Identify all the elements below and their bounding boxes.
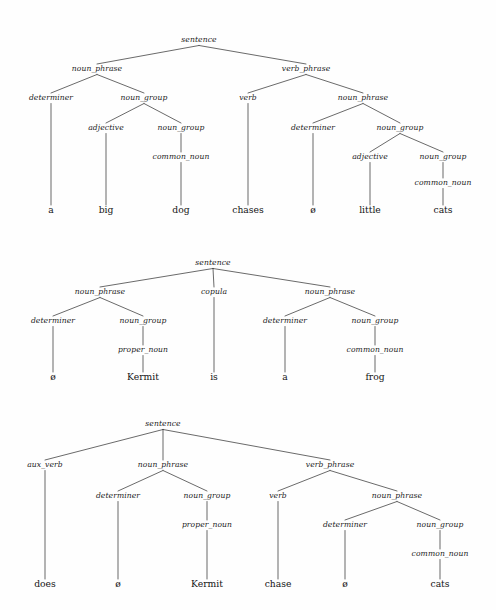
tree-edge xyxy=(363,104,400,124)
parse-tree: sentencenoun_phrasecopulanoun_phrasedete… xyxy=(31,258,404,382)
tree-leaf-word: a xyxy=(282,371,288,382)
tree-edge xyxy=(313,104,363,124)
tree-edge xyxy=(278,471,330,492)
tree-edge xyxy=(97,75,144,94)
tree-leaf-word: chases xyxy=(232,204,264,215)
tree-edge xyxy=(248,75,306,94)
tree-node-label: proper_noun xyxy=(182,520,232,529)
tree-leaf-word: does xyxy=(34,578,56,589)
tree-leaf-word: cats xyxy=(433,204,452,215)
tree-node-label: noun_group xyxy=(417,520,464,529)
tree-node-label: noun_phrase xyxy=(338,93,389,102)
tree-edge xyxy=(118,471,163,492)
tree-edge xyxy=(330,471,397,492)
tree-edge xyxy=(330,298,375,317)
tree-node-label: noun_phrase xyxy=(372,491,423,500)
tree-edges xyxy=(53,269,375,373)
tree-node-label: determiner xyxy=(323,520,367,529)
tree-node-label: aux_verb xyxy=(27,460,63,469)
tree-node-label: adjective xyxy=(352,152,388,161)
tree-edge xyxy=(345,502,397,521)
tree-leaf-word: chase xyxy=(265,578,292,589)
tree-node-label: noun_phrase xyxy=(305,287,356,296)
tree-node-label: determiner xyxy=(96,491,140,500)
tree-leaf-word: a xyxy=(48,204,54,215)
tree-node-label: sentence xyxy=(145,419,181,428)
tree-node-label: adjective xyxy=(88,123,124,132)
tree-node-label: verb_phrase xyxy=(282,64,331,73)
tree-node-label: determiner xyxy=(291,123,335,132)
tree-node-label: common_noun xyxy=(347,345,404,354)
tree-edge xyxy=(100,298,143,317)
tree-node-label: verb xyxy=(239,93,257,102)
tree-leaf-word: frog xyxy=(365,371,384,382)
tree-edge xyxy=(397,502,440,521)
tree-edge xyxy=(213,269,330,288)
tree-node-label: noun_group xyxy=(352,316,399,325)
tree-edge xyxy=(144,104,181,124)
tree-edge xyxy=(285,298,330,317)
tree-edge xyxy=(163,471,207,492)
tree-leaf-word: ø xyxy=(342,578,348,589)
tree-node-label: noun_group xyxy=(377,123,424,132)
tree-node-label: noun_group xyxy=(121,93,168,102)
tree-leaf-word: little xyxy=(359,204,381,215)
tree-node-label: noun_group xyxy=(158,123,205,132)
tree-node-label: determiner xyxy=(29,93,73,102)
parse-tree-canvas: sentencenoun_phraseverb_phrasedeterminer… xyxy=(0,0,496,610)
tree-node-label: noun_phrase xyxy=(138,460,189,469)
tree-node-label: common_noun xyxy=(153,152,210,161)
tree-node-label: noun_group xyxy=(420,152,467,161)
tree-edge xyxy=(51,75,97,94)
tree-edge xyxy=(163,430,330,461)
tree-leaf-word: Kermit xyxy=(191,578,223,589)
tree-edge xyxy=(199,46,306,65)
tree-leaf-word: big xyxy=(99,204,114,215)
tree-node-label: copula xyxy=(201,287,228,296)
tree-edges xyxy=(45,430,440,580)
parse-tree: sentenceaux_verbnoun_phraseverb_phrasede… xyxy=(27,419,468,589)
tree-leaf-word: cats xyxy=(430,578,449,589)
parse-tree-page: sentencenoun_phraseverb_phrasedeterminer… xyxy=(0,0,496,610)
tree-node-label: proper_noun xyxy=(118,345,168,354)
tree-node-label: verb_phrase xyxy=(306,460,355,469)
tree-node-label: noun_group xyxy=(120,316,167,325)
tree-leaf-word: ø xyxy=(115,578,121,589)
tree-node-label: noun_phrase xyxy=(75,287,126,296)
tree-leaf-word: Kermit xyxy=(127,371,159,382)
tree-node-label: noun_phrase xyxy=(72,64,123,73)
tree-edge xyxy=(100,269,213,288)
tree-node-label: noun_group xyxy=(184,491,231,500)
tree-leaf-word: is xyxy=(210,371,218,382)
tree-node-label: common_noun xyxy=(415,178,472,187)
tree-edge xyxy=(213,269,214,288)
parse-tree: sentencenoun_phraseverb_phrasedeterminer… xyxy=(29,35,472,215)
tree-node-label: determiner xyxy=(31,316,75,325)
tree-leaf-word: ø xyxy=(310,204,316,215)
tree-edge xyxy=(370,134,400,153)
tree-node-label: determiner xyxy=(263,316,307,325)
tree-edge xyxy=(45,430,163,461)
tree-edge xyxy=(97,46,199,65)
tree-node-label: sentence xyxy=(195,258,231,267)
tree-leaf-word: dog xyxy=(172,204,189,215)
tree-leaf-word: ø xyxy=(50,371,56,382)
tree-edge xyxy=(106,104,144,124)
tree-node-label: verb xyxy=(269,491,287,500)
tree-edge xyxy=(306,75,363,94)
tree-node-label: common_noun xyxy=(412,549,469,558)
tree-node-label: sentence xyxy=(181,35,217,44)
tree-edge xyxy=(400,134,443,153)
tree-edge xyxy=(53,298,100,317)
